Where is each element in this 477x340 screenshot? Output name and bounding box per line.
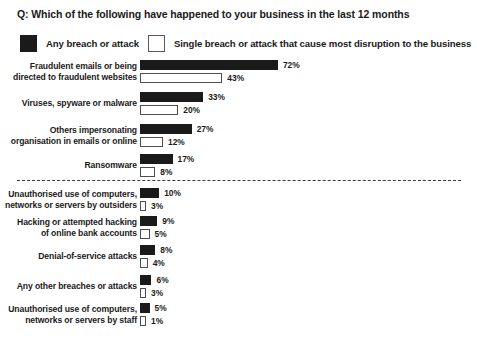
- bar-row-dark: 5%: [140, 303, 167, 313]
- category-label-line1: Any other breaches or attacks: [17, 281, 137, 291]
- bar-value-label: 33%: [208, 92, 225, 102]
- category-label-line2: networks or servers by staff: [8, 315, 137, 326]
- category-label: Ransomware: [85, 160, 138, 171]
- bar-any-breach: [140, 216, 157, 226]
- bar-row-light: 4%: [140, 258, 165, 268]
- category-label: Others impersonatingorganisation in emai…: [11, 125, 137, 146]
- bar-any-breach: [140, 188, 159, 198]
- bar-row-light: 3%: [140, 201, 163, 211]
- bar-row-light: 1%: [140, 316, 163, 326]
- chart-plot-area: Fraudulent emails or beingdirected to fr…: [0, 0, 477, 340]
- bar-row-dark: 8%: [140, 245, 172, 255]
- category-label-line1: Fraudulent emails or being: [30, 61, 137, 71]
- category-label-line2: directed to fraudulent websites: [13, 72, 137, 83]
- bar-value-label: 8%: [160, 167, 172, 177]
- category-label: Hacking or attempted hackingof online ba…: [17, 217, 137, 238]
- bar-single-breach: [140, 73, 222, 83]
- bar-value-label: 5%: [155, 229, 167, 239]
- bar-value-label: 9%: [162, 216, 174, 226]
- bar-single-breach: [140, 316, 146, 326]
- bar-single-breach: [140, 258, 148, 268]
- bar-row-light: 8%: [140, 167, 172, 177]
- bar-row-dark: 6%: [140, 275, 169, 285]
- bar-value-label: 1%: [151, 316, 163, 326]
- bar-any-breach: [140, 92, 203, 102]
- category-label-line1: Unauthorised use of computers,: [8, 304, 137, 314]
- category-label-line1: Ransomware: [85, 160, 138, 170]
- category-label: Unauthorised use of computers,networks o…: [8, 304, 137, 325]
- bar-row-dark: 10%: [140, 188, 181, 198]
- bar-value-label: 27%: [197, 124, 214, 134]
- category-label-line2: organisation in emails or online: [11, 136, 137, 147]
- category-label: Fraudulent emails or beingdirected to fr…: [13, 61, 137, 82]
- bar-any-breach: [140, 154, 173, 164]
- bar-row-light: 3%: [140, 288, 163, 298]
- bar-value-label: 6%: [156, 275, 168, 285]
- bar-any-breach: [140, 124, 192, 134]
- bar-value-label: 8%: [160, 245, 172, 255]
- bar-row-light: 20%: [140, 105, 200, 115]
- category-label-line1: Viruses, spyware or malware: [22, 98, 137, 108]
- category-label-line2: networks or servers by outsiders: [5, 200, 137, 211]
- bar-single-breach: [140, 167, 155, 177]
- section-divider: [17, 180, 461, 181]
- bar-single-breach: [140, 105, 178, 115]
- bar-value-label: 4%: [153, 258, 165, 268]
- bar-value-label: 72%: [283, 60, 300, 70]
- category-label-line1: Others impersonating: [50, 125, 137, 135]
- bar-value-label: 3%: [151, 201, 163, 211]
- category-label: Denial-of-service attacks: [38, 251, 137, 262]
- bar-row-light: 12%: [140, 137, 185, 147]
- category-label: Unauthorised use of computers,networks o…: [5, 189, 137, 210]
- bar-row-dark: 72%: [140, 60, 300, 70]
- bar-single-breach: [140, 201, 146, 211]
- bar-value-label: 3%: [151, 288, 163, 298]
- bar-any-breach: [140, 275, 151, 285]
- category-label: Any other breaches or attacks: [17, 281, 137, 292]
- bar-value-label: 10%: [164, 188, 181, 198]
- bar-value-label: 12%: [168, 137, 185, 147]
- scan-speck: [21, 289, 23, 291]
- category-label-line1: Unauthorised use of computers,: [8, 189, 137, 199]
- bar-any-breach: [140, 60, 278, 70]
- category-label-line2: of online bank accounts: [17, 228, 137, 239]
- bar-value-label: 5%: [155, 303, 167, 313]
- bar-row-dark: 9%: [140, 216, 174, 226]
- bar-value-label: 20%: [183, 105, 200, 115]
- category-label: Viruses, spyware or malware: [22, 98, 137, 109]
- bar-value-label: 43%: [227, 73, 244, 83]
- bar-any-breach: [140, 245, 155, 255]
- bar-row-light: 5%: [140, 229, 167, 239]
- bar-any-breach: [140, 303, 150, 313]
- category-label-line1: Hacking or attempted hacking: [17, 217, 137, 227]
- bar-row-dark: 27%: [140, 124, 213, 134]
- bar-row-light: 43%: [140, 73, 244, 83]
- bar-single-breach: [140, 137, 163, 147]
- bar-single-breach: [140, 288, 146, 298]
- bar-row-dark: 33%: [140, 92, 225, 102]
- bar-row-dark: 17%: [140, 154, 194, 164]
- category-label-line1: Denial-of-service attacks: [38, 251, 137, 261]
- bar-value-label: 17%: [178, 154, 195, 164]
- bar-single-breach: [140, 229, 150, 239]
- chart-page: Q: Which of the following have happened …: [0, 0, 477, 340]
